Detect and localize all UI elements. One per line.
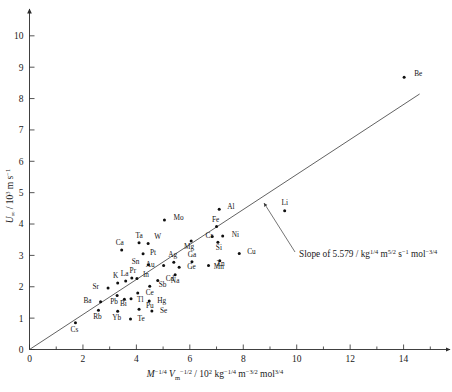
- y-tick-label: 0: [19, 345, 24, 355]
- point-label: Te: [138, 314, 145, 323]
- data-point: Si: [216, 241, 222, 253]
- regression-line: [30, 94, 420, 350]
- data-point: Ni: [221, 230, 239, 239]
- point-label: Be: [414, 69, 422, 78]
- point-marker: [129, 318, 132, 321]
- point-marker: [130, 297, 133, 300]
- data-point: Sr: [93, 282, 110, 291]
- point-marker: [142, 252, 145, 255]
- point-label: Se: [160, 306, 167, 315]
- x-tick-label: 0: [27, 354, 32, 364]
- y-tick-label: 4: [19, 219, 24, 229]
- point-label: Ba: [83, 296, 92, 305]
- point-marker: [178, 266, 181, 269]
- data-point: Yb: [112, 310, 121, 323]
- y-tick-label: 5: [19, 188, 24, 198]
- data-point: La: [121, 269, 129, 283]
- y-tick-label: 6: [19, 157, 24, 167]
- data-point: Ca: [116, 238, 125, 252]
- point-label: Ag: [168, 250, 177, 259]
- point-label: Sb: [159, 280, 167, 289]
- y-tick-label: 2: [19, 282, 24, 292]
- leader-path: [264, 203, 295, 252]
- x-tick-label: 12: [345, 354, 355, 364]
- point-marker: [116, 282, 119, 285]
- data-point: Ag: [168, 250, 177, 264]
- point-marker: [150, 309, 153, 312]
- point-label: Li: [281, 198, 288, 207]
- x-tick-label: 10: [292, 354, 302, 364]
- data-point: Rb: [93, 309, 102, 322]
- point-label: Sr: [93, 282, 100, 291]
- point-marker: [147, 242, 150, 245]
- point-marker: [124, 280, 127, 283]
- x-tick-label: 2: [81, 354, 86, 364]
- y-tick-label: 10: [14, 31, 24, 41]
- plot-area: BeLiAlMoFeNiCrSiMgTaWCaPtCuMnAgGaZnGeAuS…: [0, 0, 452, 392]
- point-label: Ce: [146, 288, 154, 297]
- point-marker: [283, 209, 286, 212]
- data-point: Cs: [71, 321, 79, 334]
- x-tick-label: 8: [241, 354, 246, 364]
- point-marker: [215, 225, 218, 228]
- point-marker: [238, 252, 241, 255]
- y-axis-label: U∞ / 103 m s−1: [4, 169, 17, 223]
- fit-line: [30, 94, 420, 350]
- point-label: Pr: [130, 266, 137, 275]
- point-label: Yb: [112, 313, 121, 322]
- point-label: Si: [216, 243, 222, 252]
- point-label: Pu: [146, 301, 154, 310]
- point-label: Pt: [150, 248, 156, 257]
- data-point: Mo: [163, 213, 184, 222]
- scatter-chart: BeLiAlMoFeNiCrSiMgTaWCaPtCuMnAgGaZnGeAuS…: [0, 0, 452, 392]
- tick-labels: 02468101214012345678910: [14, 31, 409, 363]
- point-marker: [138, 241, 141, 244]
- point-marker: [403, 76, 406, 79]
- point-marker: [99, 300, 102, 303]
- data-point: Ge: [178, 262, 196, 271]
- point-marker: [138, 308, 141, 311]
- point-marker: [218, 208, 221, 211]
- x-tick-label: 4: [134, 354, 139, 364]
- point-label: Ga: [188, 250, 197, 259]
- data-point: Li: [281, 198, 288, 213]
- x-tick-label: 14: [399, 354, 409, 364]
- point-label: Mo: [173, 213, 183, 222]
- point-marker: [207, 264, 210, 267]
- point-marker: [120, 249, 123, 252]
- point-label: Cd: [166, 274, 175, 283]
- point-marker: [107, 287, 110, 290]
- point-label: Fe: [212, 215, 219, 224]
- data-point: Cr: [206, 231, 214, 240]
- data-point: In: [135, 270, 149, 281]
- y-tick-label: 9: [19, 63, 24, 73]
- point-label: Ge: [187, 262, 196, 271]
- data-point: Cu: [238, 247, 256, 256]
- data-point: Ga: [188, 250, 197, 264]
- point-label: Al: [227, 202, 234, 211]
- data-point: Pb: [110, 294, 118, 306]
- x-axis-label: M−1/4 Vm−1/2 / 102 kg−1/4 m−3/2 mol3/4: [146, 368, 284, 381]
- axes: [30, 9, 451, 350]
- data-point: Pt: [142, 248, 157, 257]
- point-marker: [221, 234, 224, 237]
- point-label: In: [143, 270, 149, 279]
- data-point: Te: [129, 314, 145, 323]
- point-marker: [162, 264, 165, 267]
- data-point: Tl: [130, 295, 144, 304]
- data-point: Al: [218, 202, 235, 211]
- y-tick-label: 7: [19, 125, 24, 135]
- annotation-leader-line: [264, 203, 295, 252]
- point-label: Zn: [217, 259, 225, 268]
- point-label: K: [113, 271, 119, 280]
- data-point: Ta: [135, 231, 143, 245]
- point-label: Sn: [132, 257, 140, 266]
- slope-annotation: Slope of 5.579 / kg1/4 m5/2 s−1 mol−3/4: [299, 248, 438, 260]
- point-label: La: [121, 269, 129, 278]
- data-point: Zn: [207, 259, 225, 268]
- y-tick-label: 1: [19, 314, 24, 324]
- point-label: Cr: [206, 231, 214, 240]
- point-label: Bi: [120, 299, 127, 308]
- y-tick-label: 8: [19, 94, 24, 104]
- point-marker: [172, 261, 175, 264]
